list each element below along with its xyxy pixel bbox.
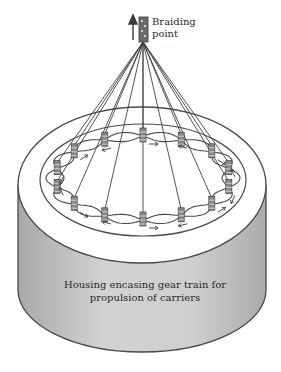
- bobbin-carrier: [178, 132, 184, 146]
- bobbin-carrier: [140, 212, 146, 226]
- bobbin-carrier: [54, 161, 60, 175]
- housing-label: Housing encasing gear train for propulsi…: [60, 278, 230, 304]
- bobbin-carrier: [226, 179, 232, 193]
- bobbin-carrier: [102, 208, 108, 222]
- braiding-point: [139, 17, 148, 42]
- bobbin-carrier: [140, 128, 146, 142]
- bobbin-carrier: [226, 161, 232, 175]
- bobbin-carrier: [102, 132, 108, 146]
- braiding-point-label-line2: point: [152, 28, 196, 40]
- braiding-point-label-line1: Braiding: [152, 16, 196, 28]
- housing-label-line2: propulsion of carriers: [60, 291, 230, 304]
- braiding-point-label: Braiding point: [152, 16, 196, 40]
- bobbin-carrier: [209, 196, 215, 210]
- bobbin-carrier: [209, 144, 215, 158]
- bobbin-carrier: [178, 208, 184, 222]
- housing-label-line1: Housing encasing gear train for: [60, 278, 230, 291]
- braiding-machine-diagram: [0, 0, 281, 372]
- take-up-arrow-icon: [129, 15, 137, 40]
- bobbin-carrier: [71, 144, 77, 158]
- bobbin-carrier: [71, 196, 77, 210]
